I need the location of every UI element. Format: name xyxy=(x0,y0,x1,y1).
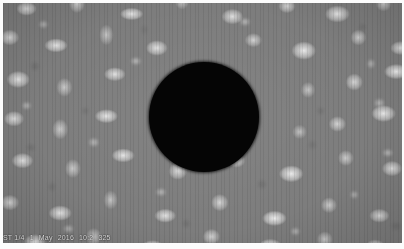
frame-margin-bottom xyxy=(0,243,404,249)
occulting-disk xyxy=(149,62,259,172)
frame-margin-top xyxy=(0,0,404,3)
solar-granulation-image[interactable] xyxy=(3,3,402,243)
frame-margin-left xyxy=(0,0,3,249)
image-viewer: ST 1/4 1 May 2016 10:2 325 xyxy=(0,0,404,249)
